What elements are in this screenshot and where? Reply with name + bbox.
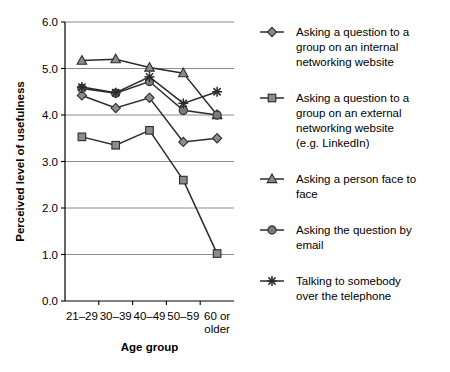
chart-svg: 0.01.02.03.04.05.06.021–2930–3940–4950–5… [0, 0, 450, 372]
legend-label: face [296, 188, 318, 200]
legend-marker [267, 276, 277, 286]
legend-label: Asking a question to a [296, 92, 410, 104]
x-tick-label: older [204, 323, 230, 335]
x-tick-label: 40–49 [134, 310, 166, 322]
legend-marker [267, 27, 276, 36]
y-gridlines: 0.01.02.03.04.05.06.0 [42, 16, 234, 307]
x-tick-label: 50–59 [167, 310, 199, 322]
series-1 [77, 91, 221, 147]
data-point [145, 72, 155, 82]
y-tick-label: 0.0 [42, 295, 58, 307]
legend-item-1[interactable]: Asking a question to agroup on an intern… [260, 26, 410, 68]
legend-label: Asking a question to a [296, 26, 410, 38]
series-3 [77, 54, 222, 118]
legend-label: networking website [296, 122, 394, 134]
data-point [180, 176, 188, 184]
legend-marker [268, 226, 276, 234]
data-point [111, 103, 120, 112]
x-tick-label: 21–29 [66, 310, 98, 322]
legend-label: Asking a person face to [296, 173, 416, 185]
x-tick-label: 30–39 [100, 310, 132, 322]
data-point [212, 87, 222, 97]
y-tick-label: 1.0 [42, 249, 58, 261]
chart-container: 0.01.02.03.04.05.06.021–2930–3940–4950–5… [0, 0, 450, 372]
data-point [213, 111, 221, 119]
y-tick-label: 4.0 [42, 109, 58, 121]
x-axis-labels: 21–2930–3940–4950–5960 orolder [66, 301, 230, 335]
data-point [213, 134, 222, 143]
x-tick-label: 60 or [204, 310, 230, 322]
data-point [77, 82, 87, 92]
legend-item-5[interactable]: Talking to somebodyover the telephone [260, 275, 401, 302]
y-axis-title: Perceived level of usefulness [14, 81, 26, 241]
y-tick-label: 2.0 [42, 202, 58, 214]
legend-label: group on an external [296, 107, 402, 119]
legend-label: (e.g. LinkedIn) [296, 137, 370, 149]
legend-marker [268, 94, 276, 102]
legend-label: group on an internal [296, 41, 398, 53]
data-point [178, 98, 188, 108]
y-tick-label: 5.0 [42, 63, 58, 75]
legend-label: email [296, 239, 323, 251]
legend-label: Asking the question by [296, 224, 412, 236]
data-point [112, 141, 120, 149]
data-point [213, 250, 221, 258]
legend-item-4[interactable]: Asking the question byemail [260, 224, 412, 251]
legend-label: over the telephone [296, 290, 391, 302]
data-point [78, 133, 86, 141]
legend-item-3[interactable]: Asking a person face toface [260, 173, 416, 200]
x-axis-title: Age group [121, 341, 179, 353]
legend-label: networking website [296, 56, 394, 68]
legend-item-2[interactable]: Asking a question to agroup on an extern… [260, 92, 410, 149]
legend-label: Talking to somebody [296, 275, 401, 287]
y-tick-label: 6.0 [42, 16, 58, 28]
series-line [82, 130, 217, 253]
data-point [111, 88, 121, 98]
series-2 [78, 127, 221, 258]
y-tick-label: 3.0 [42, 156, 58, 168]
data-point [146, 127, 154, 135]
data-point [111, 54, 121, 63]
